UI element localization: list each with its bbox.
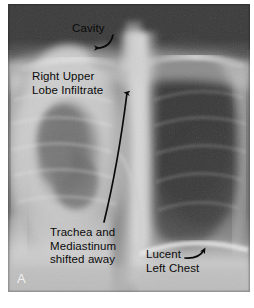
rul-line-1: Right Upper [32, 70, 103, 84]
trachea-line-3: shifted away [50, 253, 116, 267]
paper-margin-strip [0, 292, 254, 308]
panel-letter: A [17, 271, 26, 286]
lucent-line-2: Left Chest [146, 262, 199, 276]
annotation-label-cavity: Cavity [72, 22, 105, 36]
trachea-line-1: Trachea and [50, 226, 116, 240]
figure-root: Cavity Right Upper Lobe Infiltrate Trach… [0, 0, 254, 308]
xray-canvas [8, 4, 250, 292]
annotation-label-trachea-mediastinum: Trachea and Mediastinum shifted away [50, 226, 116, 267]
trachea-line-2: Mediastinum [50, 240, 116, 254]
rul-line-2: Lobe Infiltrate [32, 84, 103, 98]
cavity-text: Cavity [72, 22, 105, 34]
annotation-label-lucent-left-chest: Lucent Left Chest [146, 248, 199, 275]
annotation-label-right-upper-lobe: Right Upper Lobe Infiltrate [32, 70, 103, 97]
chest-xray-image [8, 4, 250, 292]
lucent-line-1: Lucent [146, 248, 199, 262]
